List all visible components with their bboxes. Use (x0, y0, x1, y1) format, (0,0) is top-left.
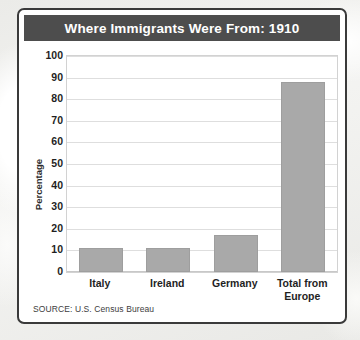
bar (79, 248, 123, 272)
chart-card: Where Immigrants Were From: 1910 Percent… (17, 8, 347, 324)
bar (146, 248, 190, 272)
y-axis-tick-label: 100 (35, 50, 63, 61)
source-note: SOURCE: U.S. Census Bureau (33, 304, 154, 314)
x-axis-tick-label-line: Italy (66, 277, 134, 290)
plot-area (66, 55, 338, 273)
bar (214, 235, 258, 272)
y-axis-tick-label: 20 (35, 223, 63, 234)
y-axis-tick-label: 0 (35, 266, 63, 277)
y-axis-tick-label: 60 (35, 136, 63, 147)
y-axis-tick-label: 80 (35, 93, 63, 104)
x-axis-tick-label-line: Total from (269, 277, 337, 290)
bar (281, 82, 325, 272)
x-axis-tick-label-line: Ireland (134, 277, 202, 290)
y-axis-tick-labels: 1009080706050403020100 (35, 55, 63, 273)
y-axis-tick-label: 10 (35, 244, 63, 255)
page-title: Where Immigrants Were From: 1910 (65, 21, 300, 36)
y-axis-tick-label: 90 (35, 71, 63, 82)
chart-title-bar: Where Immigrants Were From: 1910 (24, 15, 340, 41)
x-axis-tick-label: Germany (201, 277, 269, 290)
y-axis-tick-label: 40 (35, 179, 63, 190)
gridline (67, 78, 337, 79)
x-axis-tick-label: Total fromEurope (269, 277, 337, 302)
chart-area: Percentage 1009080706050403020100 ItalyI… (19, 41, 345, 324)
x-axis-tick-label-line: Europe (269, 290, 337, 303)
y-axis-tick-label: 30 (35, 201, 63, 212)
y-axis-tick-label: 50 (35, 158, 63, 169)
x-axis-tick-label-line: Germany (201, 277, 269, 290)
x-axis-tick-label: Italy (66, 277, 134, 290)
y-axis-tick-label: 70 (35, 115, 63, 126)
x-axis-tick-label: Ireland (134, 277, 202, 290)
gridline (67, 56, 337, 57)
